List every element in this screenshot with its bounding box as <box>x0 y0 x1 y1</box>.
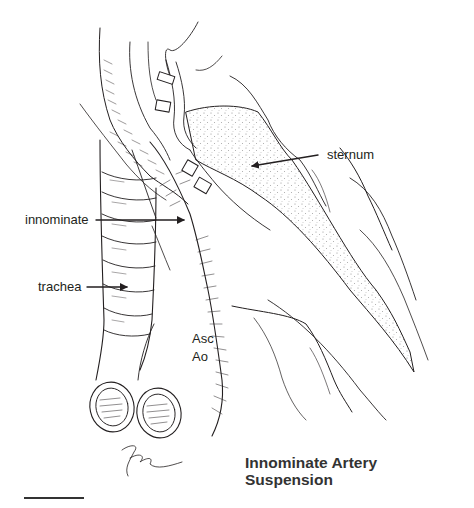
figure-title-line1: Innominate Artery <box>245 454 377 471</box>
artist-signature <box>122 446 182 476</box>
sternum <box>186 106 414 372</box>
label-trachea: trachea <box>38 280 81 294</box>
pledget-1 <box>157 72 175 85</box>
anatomical-illustration <box>0 0 474 508</box>
label-ao: Ao <box>192 350 208 364</box>
label-innominate: innominate <box>25 213 89 227</box>
pledget-2 <box>155 100 171 112</box>
figure-title-line2: Suspension <box>245 471 377 488</box>
ascending-aorta <box>150 142 223 436</box>
pledget-4 <box>194 177 212 194</box>
neck-contour <box>166 22 198 80</box>
label-sternum: sternum <box>327 148 374 162</box>
label-asc: Asc <box>192 332 214 346</box>
pledget-3 <box>182 160 198 176</box>
figure-title: Innominate Artery Suspension <box>245 454 377 488</box>
left-bronchus-opening <box>85 378 138 436</box>
scale-bar <box>24 497 84 499</box>
right-bronchus-opening <box>132 384 185 442</box>
